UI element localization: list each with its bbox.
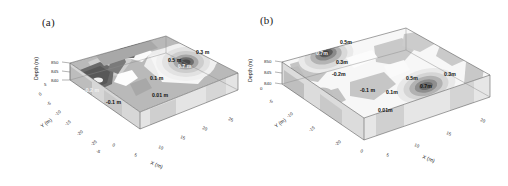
- contour-label-0.3m-upper: 0.3m: [336, 59, 348, 65]
- panel-a: (a): [0, 0, 254, 186]
- x-tick-5: 5: [386, 152, 391, 158]
- depth-axis-label: Depth (m): [33, 57, 39, 80]
- y-tick-0: 0: [38, 91, 43, 97]
- y-axis-label: Y (m): [273, 117, 287, 129]
- contour-label-neg0.1m: -0.1 m: [106, 99, 121, 105]
- y-tick-m10: -10: [54, 109, 63, 117]
- y-tick-m5: -5: [46, 100, 53, 107]
- contour-label-0.3m: 0.3 m: [196, 49, 210, 55]
- contour-label-0.01m: 0.01 m: [152, 92, 169, 98]
- y-tick-m20: -20: [334, 139, 343, 147]
- y-tick-m25: -25: [90, 139, 99, 147]
- x-tick-25: 25: [228, 116, 235, 123]
- contour-label-0.01m: 0.01m: [378, 107, 393, 113]
- x-tick-20: 20: [480, 117, 487, 124]
- contour-label-neg0.2m: -0.2 m: [84, 87, 99, 93]
- x-tick-20: 20: [202, 125, 209, 132]
- x-tick-5: 5: [134, 152, 139, 158]
- contour-label-0.3m-lower: 0.3m: [444, 71, 456, 77]
- y-tick-5: 5: [44, 82, 47, 87]
- depth-tick-845: 845: [51, 69, 59, 74]
- y-tick-m5: -5: [268, 98, 275, 105]
- depth-axis-b: 850 845 840 Depth (m): [247, 59, 282, 86]
- depth-tick-850: 850: [264, 59, 272, 64]
- contour-label-0.1m: 0.1 m: [150, 75, 164, 81]
- x-tick-10: 10: [414, 142, 421, 149]
- y-tick-m15: -15: [64, 119, 73, 127]
- contour-label-0.7m-upper: 0.7m: [316, 50, 328, 56]
- depth-tick-850: 850: [51, 60, 59, 65]
- contour-label-0.5m-lower: 0.5m: [406, 75, 418, 81]
- depth-tick-840: 840: [51, 78, 59, 83]
- contour-label-0.7m: 0.7 m: [178, 63, 192, 69]
- contour-label-0.7m-lower: 0.7m: [420, 83, 432, 89]
- depth-tick-840: 840: [264, 81, 272, 86]
- y-tick-m20: -20: [76, 129, 85, 137]
- y-tick-m15: -15: [308, 125, 317, 133]
- contour-label-neg0.2m: -0.2m: [332, 71, 346, 77]
- x-tick-0: 0: [112, 142, 117, 148]
- panel-b: (b): [254, 0, 508, 186]
- x-tick-15: 15: [180, 134, 187, 141]
- x-tick-0: 0: [360, 148, 365, 154]
- y-axis-label: Y (m): [39, 117, 53, 129]
- x-tick-10: 10: [158, 144, 165, 151]
- x-axis-label: X (m): [422, 153, 436, 163]
- y-tick-0: 0: [260, 86, 263, 91]
- panel-a-plot: 850 845 840 Depth (m) 5 0 -5 -10 -15 -20…: [0, 0, 254, 186]
- y-tick-m10: -10: [286, 111, 295, 119]
- x-tick-15: 15: [446, 130, 453, 137]
- figure-container: (a): [0, 0, 508, 186]
- x-axis-label: X (m): [150, 159, 164, 169]
- panel-b-plot: 850 845 840 Depth (m) 0 -5 -10 -15 -20 Y…: [254, 0, 508, 186]
- contour-label-0.1m: 0.1m: [386, 89, 398, 95]
- x-axis-a: -5 0 5 10 15 20 25 X (m): [96, 116, 235, 169]
- x-tick-m5: -5: [96, 148, 102, 154]
- contour-label-0.5m-upper: 0.5m: [340, 39, 352, 45]
- depth-axis-label: Depth (m): [247, 59, 253, 82]
- depth-tick-845: 845: [264, 70, 272, 75]
- contour-label-neg0.1m: -0.1 m: [360, 87, 375, 93]
- depth-axis-a: 850 845 840 Depth (m): [33, 57, 70, 83]
